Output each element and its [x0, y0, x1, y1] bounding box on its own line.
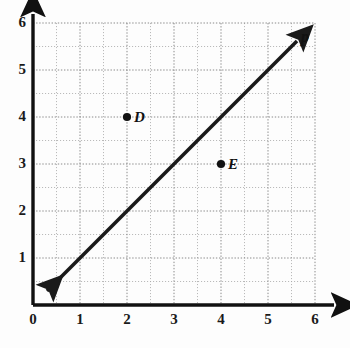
x-tick-label-0: 0: [22, 312, 44, 327]
point-d-label: D: [134, 110, 145, 125]
point-d-marker: [123, 113, 131, 121]
x-tick-label-2: 2: [116, 312, 138, 327]
x-tick-label-3: 3: [163, 312, 185, 327]
y-tick-label-1: 1: [4, 250, 26, 265]
x-tick-label-1: 1: [69, 312, 91, 327]
y-tick-label-5: 5: [4, 62, 26, 77]
x-tick-label-4: 4: [210, 312, 232, 327]
point-e-marker: [217, 160, 225, 168]
x-tick-label-6: 6: [304, 312, 326, 327]
y-tick-label-3: 3: [4, 156, 26, 171]
x-tick-label-5: 5: [257, 312, 279, 327]
y-tick-label-6: 6: [4, 15, 26, 30]
point-e-label: E: [228, 157, 238, 172]
y-tick-label-4: 4: [4, 109, 26, 124]
y-tick-label-2: 2: [4, 203, 26, 218]
coordinate-plane-svg: [0, 0, 350, 348]
line-p-label: p: [301, 29, 309, 45]
graph-figure: D E p 0 1 2 3 4 5 6 1 2 3 4 5 6: [0, 0, 350, 348]
line-p: [47, 41, 297, 291]
